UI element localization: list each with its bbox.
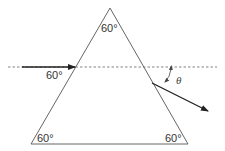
deviation-angle-arc xyxy=(165,69,171,82)
incidence-angle-label: 60° xyxy=(46,69,63,81)
theta-label: θ xyxy=(176,74,182,86)
apex-angle-label: 60° xyxy=(101,22,118,34)
emergent-ray-arrow xyxy=(152,83,208,111)
base-right-angle-label: 60° xyxy=(165,132,182,144)
base-left-angle-label: 60° xyxy=(37,132,54,144)
prism-diagram: 60° 60° 60° 60° θ xyxy=(0,0,225,151)
